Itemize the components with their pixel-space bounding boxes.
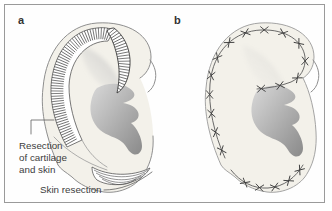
- svg-text:and skin: and skin: [19, 164, 56, 175]
- panel-b-label: b: [174, 14, 181, 26]
- svg-text:Resection: Resection: [19, 140, 63, 151]
- panel-a-label: a: [18, 14, 25, 26]
- ear-illustration-b: [205, 23, 318, 192]
- skin-resection-label: Skin resection: [40, 184, 102, 195]
- figure-canvas: a: [0, 0, 332, 211]
- svg-text:of cartilage: of cartilage: [19, 152, 67, 163]
- ear-illustration-a: [42, 23, 155, 192]
